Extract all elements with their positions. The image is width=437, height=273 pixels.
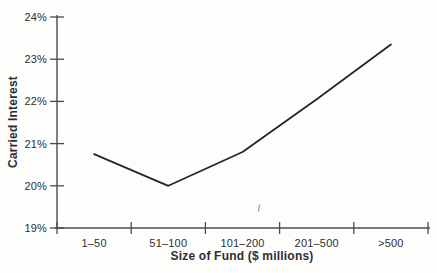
x-category-label: >500 — [378, 237, 404, 249]
axes-layer: 19%20%21%22%23%24%1–5051–100101–200201–5… — [24, 11, 430, 249]
y-tick-label: 19% — [24, 222, 47, 234]
y-tick-label: 23% — [24, 53, 47, 65]
carried-interest-chart: 19%20%21%22%23%24%1–5051–100101–200201–5… — [0, 0, 437, 273]
x-category-label: 101–200 — [220, 237, 264, 249]
scan-artifact-mark — [259, 205, 260, 211]
x-category-label: 51–100 — [149, 237, 187, 249]
x-category-label: 1–50 — [81, 237, 106, 249]
y-tick-label: 24% — [24, 11, 47, 23]
line-series-layer — [94, 44, 391, 185]
carried-interest-line — [94, 44, 391, 185]
x-category-label: 201–500 — [295, 237, 339, 249]
y-tick-label: 22% — [24, 95, 47, 107]
chart-canvas: 19%20%21%22%23%24%1–5051–100101–200201–5… — [0, 0, 437, 273]
x-axis-title: Size of Fund ($ millions) — [171, 249, 314, 263]
y-tick-label: 20% — [24, 180, 47, 192]
y-axis-title: Carried Interest — [6, 76, 20, 168]
y-tick-label: 21% — [24, 138, 47, 150]
